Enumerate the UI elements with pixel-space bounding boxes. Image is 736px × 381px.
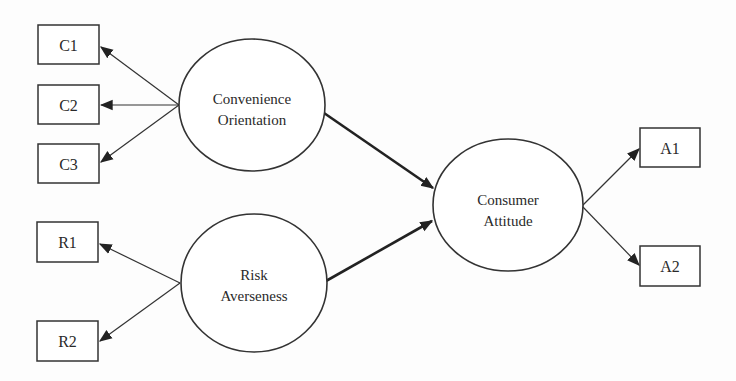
latent-convenience-orientation: Convenience Orientation: [179, 39, 325, 171]
path-risk-to-attitude: [326, 221, 432, 281]
latent-risk-averseness: Risk Averseness: [181, 214, 327, 352]
latent-label-line1: Risk: [240, 267, 268, 283]
latent-label-line1: Consumer: [477, 192, 539, 208]
latent-label-line2: Averseness: [220, 288, 287, 304]
indicator-r2: R2: [37, 321, 98, 361]
sem-diagram: C1 C2 C3 R1 R2 A1 A2 Convenience Orienta…: [0, 0, 736, 381]
latent-consumer-attitude: Consumer Attitude: [433, 139, 583, 271]
latent-label-line2: Orientation: [218, 112, 287, 128]
risk-indicator-arrows: [100, 244, 180, 341]
indicator-a2: A2: [640, 246, 700, 286]
indicator-c3: C3: [38, 144, 99, 183]
structural-paths: [324, 113, 433, 281]
arrow-to-r1: [100, 244, 180, 283]
arrow-to-a2: [582, 206, 639, 265]
arrow-to-c1: [101, 47, 179, 105]
indicator-c2: C2: [38, 85, 99, 124]
indicator-label: C2: [59, 97, 78, 114]
indicator-label: A2: [660, 258, 680, 275]
arrow-to-a1: [582, 149, 639, 206]
path-convenience-to-attitude: [324, 113, 433, 188]
indicator-label: A1: [660, 140, 680, 157]
indicator-a1: A1: [640, 128, 700, 167]
indicator-label: C3: [59, 156, 78, 173]
latent-label-line1: Convenience: [213, 91, 292, 107]
indicator-r1: R1: [37, 222, 98, 262]
indicator-label: R2: [58, 333, 77, 350]
arrow-to-r2: [100, 283, 180, 341]
arrow-to-c3: [101, 105, 179, 162]
indicator-label: R1: [58, 234, 77, 251]
indicator-c1: C1: [38, 25, 99, 64]
attitude-indicator-arrows: [582, 149, 639, 265]
convenience-indicator-arrows: [101, 47, 179, 162]
latent-label-line2: Attitude: [483, 213, 533, 229]
indicator-label: C1: [59, 37, 78, 54]
